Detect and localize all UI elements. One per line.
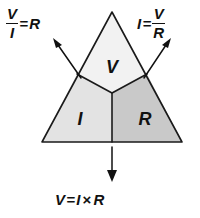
fraction-numerator: V xyxy=(6,6,18,24)
equals-sign: = xyxy=(141,16,152,31)
fraction-denominator: R xyxy=(152,24,165,41)
formula-second-operand: R xyxy=(94,192,105,207)
formula-v-over-i-equals-r: V I =R xyxy=(6,6,40,41)
fraction-numerator: V xyxy=(152,6,165,24)
multiply-sign: × xyxy=(81,192,94,207)
arrow-to-left-formula xyxy=(53,38,81,78)
region-label-r: R xyxy=(139,109,152,129)
region-label-v: V xyxy=(106,57,120,77)
fraction-v-over-r: V R xyxy=(152,6,165,41)
formula-result: R xyxy=(29,16,40,31)
arrow-to-bottom-formula xyxy=(107,147,117,182)
arrow-to-right-formula xyxy=(144,38,171,78)
fraction-v-over-i: V I xyxy=(6,6,18,41)
equals-sign: = xyxy=(18,16,29,31)
formula-lhs: V xyxy=(55,192,65,207)
ohms-law-diagram: V I R V I =R I= V R V=I×R xyxy=(0,0,200,218)
formula-i-equals-v-over-r: I= V R xyxy=(137,6,165,41)
fraction-denominator: I xyxy=(6,24,18,41)
equals-sign: = xyxy=(65,192,76,207)
formula-v-equals-i-times-r: V=I×R xyxy=(55,190,105,207)
